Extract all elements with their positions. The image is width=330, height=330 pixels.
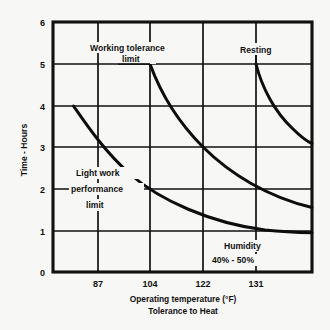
x-tick-label-122: 122 [195, 279, 210, 289]
y-tick-label-0: 0 [40, 268, 45, 278]
x-axis-subtitle: Tolerance to Heat [148, 306, 218, 316]
annotation-light-work-line3: limit [86, 200, 104, 210]
y-tick-label-5: 5 [40, 60, 45, 70]
y-tick-label-1: 1 [40, 227, 45, 237]
y-tick-label-4: 4 [40, 102, 45, 112]
x-tick-label-131: 131 [248, 279, 263, 289]
annotation-light-work-line2: performance [71, 184, 123, 194]
x-tick-label-87: 87 [93, 279, 103, 289]
annotation-humidity-line1: Humidity [224, 241, 261, 251]
y-tick-label-2: 2 [40, 185, 45, 195]
x-axis-title: Operating temperature (°F) [130, 294, 237, 304]
tolerance-to-heat-chart: Working tolerance limit Resting Light wo… [0, 0, 330, 330]
annotation-light-work-line1: Light work [76, 168, 120, 178]
y-tick-label-6: 6 [40, 18, 45, 28]
y-axis-title: Time - Hours [19, 124, 29, 177]
x-tick-label-104: 104 [142, 279, 157, 289]
chart-figure: Working tolerance limit Resting Light wo… [0, 0, 330, 330]
annotation-humidity-line2: 40% - 50% [212, 255, 254, 265]
annotation-resting-label: Resting [240, 45, 272, 55]
annotation-working-tolerance-line2: limit [122, 54, 140, 64]
y-tick-label-3: 3 [40, 143, 45, 153]
annotation-working-tolerance-line1: Working tolerance [90, 43, 165, 53]
